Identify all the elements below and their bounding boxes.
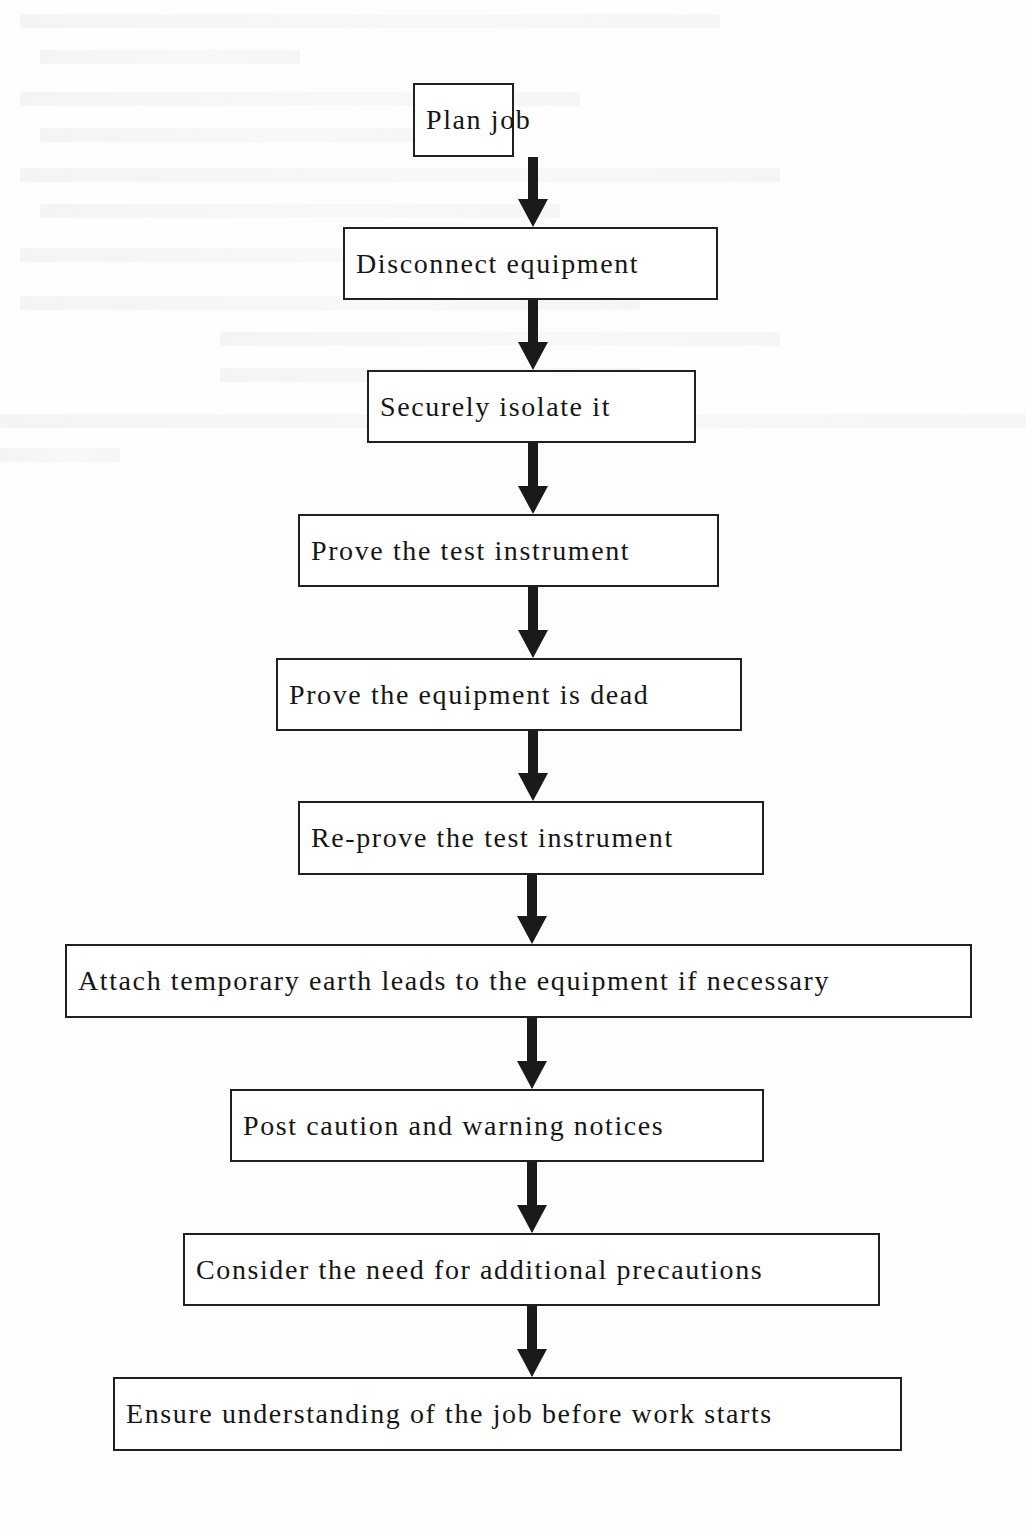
step-plan-job: Plan job [413,83,514,157]
step-post-notices: Post caution and warning notices [230,1089,764,1162]
step-consider-precautions: Consider the need for additional precaut… [183,1233,880,1306]
step-label: Attach temporary earth leads to the equi… [78,967,830,995]
arrow-down-icon [518,731,548,801]
step-ensure-understanding: Ensure understanding of the job before w… [113,1377,902,1451]
arrow-down-icon [518,587,548,658]
step-reprove-test-instrument: Re-prove the test instrument [298,801,764,875]
step-label: Consider the need for additional precaut… [196,1256,763,1284]
arrow-down-icon [518,157,548,227]
step-label: Securely isolate it [380,393,611,421]
arrow-down-icon [517,1018,547,1089]
step-label: Post caution and warning notices [243,1112,664,1140]
arrow-down-icon [518,300,548,370]
step-label: Prove the equipment is dead [289,681,649,709]
arrow-down-icon [517,1306,547,1377]
step-attach-earth-leads: Attach temporary earth leads to the equi… [65,944,972,1018]
arrow-down-icon [517,875,547,944]
step-securely-isolate: Securely isolate it [367,370,696,443]
arrow-down-icon [517,1162,547,1233]
step-label: Disconnect equipment [356,250,639,278]
safe-isolation-flowchart: Plan job Disconnect equipment Securely i… [0,0,1026,1529]
step-prove-equipment-dead: Prove the equipment is dead [276,658,742,731]
step-disconnect-equipment: Disconnect equipment [343,227,718,300]
step-label: Re-prove the test instrument [311,824,674,852]
step-prove-test-instrument: Prove the test instrument [298,514,719,587]
arrow-down-icon [518,443,548,514]
step-label: Prove the test instrument [311,537,630,565]
step-label: Ensure understanding of the job before w… [126,1400,773,1428]
step-label: Plan job [426,106,531,134]
